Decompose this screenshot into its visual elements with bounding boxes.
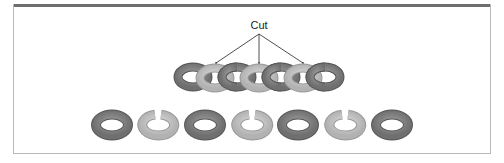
separated-ring-light-open [142, 115, 174, 136]
separated-ring-dark [376, 115, 408, 136]
chain [178, 67, 340, 88]
separated-ring-light-open [236, 115, 268, 136]
leader-line-1 [216, 34, 259, 63]
separated-rings [96, 115, 408, 136]
separated-ring-dark [189, 115, 221, 136]
leader-line-3 [259, 34, 303, 63]
separated-ring-dark [282, 115, 314, 136]
separated-ring-light-open [329, 115, 361, 136]
cut-leader-lines [216, 34, 303, 67]
separated-ring-dark [96, 115, 128, 136]
chain-diagram [0, 0, 504, 163]
